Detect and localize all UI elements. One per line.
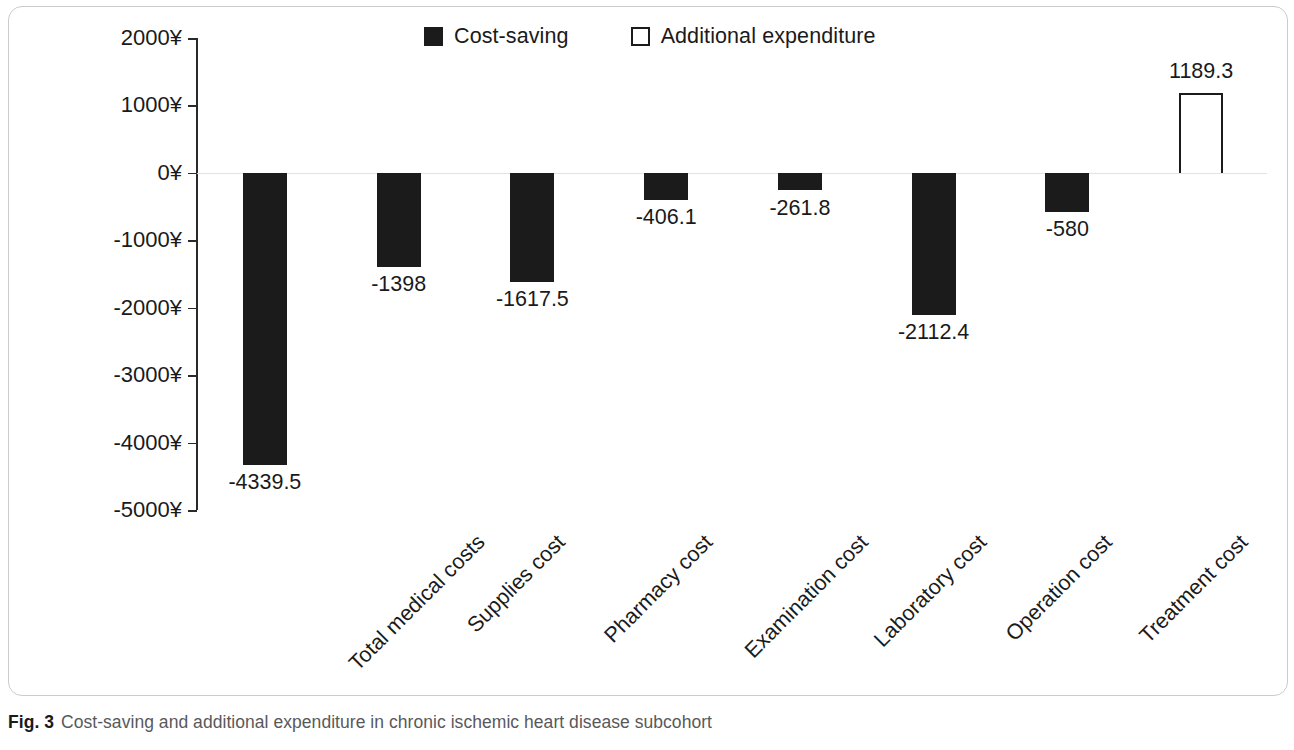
- x-axis-label: Pharmacy cost: [600, 530, 718, 648]
- x-axis-label: Laboratory cost: [869, 530, 991, 652]
- bar-supplies-cost: [377, 173, 421, 267]
- legend-label-additional-expenditure: Additional expenditure: [661, 24, 876, 49]
- x-axis-label: Examination cost: [740, 530, 873, 663]
- y-axis-tick-mark: [188, 443, 197, 445]
- bar-value-label: -261.8: [715, 196, 885, 221]
- y-axis-tick-mark: [188, 510, 197, 512]
- y-axis-tick-label: 2000¥: [121, 25, 182, 51]
- y-axis-tick-mark: [188, 173, 197, 175]
- figure-number: Fig. 3: [8, 712, 54, 732]
- y-axis-tick-mark: [188, 38, 197, 40]
- hollow-square-icon: [631, 27, 650, 46]
- y-axis-tick-label: -2000¥: [113, 295, 182, 321]
- bar-examination-cost: [644, 173, 688, 200]
- y-axis-line: [196, 38, 198, 510]
- y-axis-tick-label: -3000¥: [113, 362, 182, 388]
- y-axis-tick-label: -4000¥: [113, 430, 182, 456]
- plot-area: 2000¥1000¥0¥-1000¥-2000¥-3000¥-4000¥-500…: [0, 0, 1294, 750]
- figure-container: Cost-saving Additional expenditure 2000¥…: [0, 0, 1294, 750]
- bar-value-label: -2112.4: [849, 320, 1019, 345]
- bar-laboratory-cost: [778, 173, 822, 191]
- y-axis-tick-mark: [188, 375, 197, 377]
- y-axis-tick-label: 1000¥: [121, 92, 182, 118]
- bar-value-label: -4339.5: [180, 470, 350, 495]
- legend-item-cost-saving: Cost-saving: [424, 24, 569, 49]
- zero-baseline: [197, 173, 1267, 174]
- y-axis-tick-mark: [188, 240, 197, 242]
- bar-treatment-cost: [1045, 173, 1089, 212]
- caption-text: Cost-saving and additional expenditure i…: [61, 712, 712, 732]
- bar-pharmacy-cost: [510, 173, 554, 282]
- bar-total-medical-costs: [243, 173, 287, 466]
- legend-label-cost-saving: Cost-saving: [454, 24, 569, 49]
- bar-value-label: 1189.3: [1116, 59, 1286, 84]
- x-axis-label: Total medical costs: [344, 530, 490, 676]
- bar-operation-cost: [912, 173, 956, 315]
- legend-item-additional-expenditure: Additional expenditure: [631, 24, 876, 49]
- y-axis-tick-label: 0¥: [158, 160, 182, 186]
- bar-chinese-patent-drug-cost: [1179, 93, 1223, 173]
- filled-square-icon: [424, 27, 443, 46]
- y-axis-tick-mark: [188, 308, 197, 310]
- y-axis-tick-label: -5000¥: [113, 497, 182, 523]
- figure-caption: Fig. 3Cost-saving and additional expendi…: [8, 712, 1278, 733]
- x-axis-label: Operation cost: [1001, 530, 1118, 647]
- chart-legend: Cost-saving Additional expenditure: [424, 24, 876, 49]
- y-axis-tick-mark: [188, 105, 197, 107]
- bar-value-label: -1617.5: [447, 287, 617, 312]
- x-axis-label: Treatment cost: [1135, 530, 1254, 649]
- y-axis-tick-label: -1000¥: [113, 227, 182, 253]
- bar-value-label: -580: [982, 217, 1152, 242]
